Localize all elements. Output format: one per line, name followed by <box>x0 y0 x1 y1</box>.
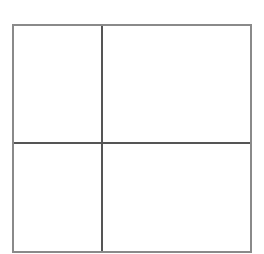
cell-bottom-right <box>103 144 250 251</box>
cell-top-right <box>103 26 250 142</box>
horizontal-divider <box>14 142 250 144</box>
vertical-divider <box>101 26 103 251</box>
cell-top-left <box>14 26 101 142</box>
grid-frame <box>12 24 252 253</box>
cell-bottom-left <box>14 144 101 251</box>
